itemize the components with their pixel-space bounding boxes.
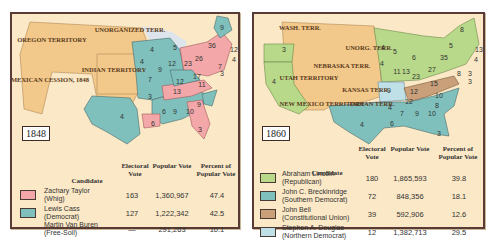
candidate-name: Stephen A. Douglas xyxy=(282,224,346,232)
table-row: Martin Van Buren (Free-Soil) — 291,263 1… xyxy=(12,220,238,238)
svg-text:8: 8 xyxy=(457,70,461,77)
svg-text:13: 13 xyxy=(475,46,483,53)
republican-swatch xyxy=(260,173,276,183)
svg-text:4: 4 xyxy=(380,60,384,67)
popular-vote: 848,356 xyxy=(384,192,436,201)
candidate-name: John Bell xyxy=(282,206,349,214)
candidate-party: (Northern Democrat) xyxy=(282,232,346,240)
percent-vote: 39.8 xyxy=(439,174,479,183)
svg-text:11: 11 xyxy=(393,68,400,75)
svg-text:35: 35 xyxy=(440,54,448,61)
svg-text:UTAH TERRITORY: UTAH TERRITORY xyxy=(280,74,339,81)
header-electoral: Electoral Vote xyxy=(115,162,155,178)
popular-vote: 1,222,342 xyxy=(147,209,197,218)
svg-text:6: 6 xyxy=(390,120,394,127)
svg-text:9: 9 xyxy=(415,110,419,117)
percent-vote: 42.5 xyxy=(197,209,237,218)
candidate-name: Zachary Taylor xyxy=(44,187,90,195)
table-row: Stephen A. Douglas (Northern Democrat) 1… xyxy=(254,223,483,241)
svg-text:13: 13 xyxy=(402,68,410,75)
percent-vote: 18.1 xyxy=(439,192,479,201)
svg-text:12: 12 xyxy=(168,60,176,67)
svg-text:4: 4 xyxy=(120,113,124,120)
header-electoral: Electoral Vote xyxy=(354,145,390,161)
svg-text:6: 6 xyxy=(412,54,416,61)
percent-vote: 10.1 xyxy=(197,225,237,234)
svg-text:3: 3 xyxy=(437,130,441,137)
candidate-name: John C. Breckinridge xyxy=(282,188,347,196)
svg-text:3: 3 xyxy=(468,78,472,85)
svg-text:4: 4 xyxy=(381,44,385,51)
constitutional-union-swatch xyxy=(260,209,276,219)
svg-text:7: 7 xyxy=(148,76,152,83)
popular-vote: 291,263 xyxy=(147,225,197,234)
svg-text:UNORGANIZED TERR.: UNORGANIZED TERR. xyxy=(95,26,166,33)
svg-text:6: 6 xyxy=(151,120,155,127)
header-popular: Popular Vote xyxy=(390,145,430,153)
svg-text:17: 17 xyxy=(193,73,201,80)
svg-text:36: 36 xyxy=(208,42,216,49)
svg-text:7: 7 xyxy=(218,63,222,70)
svg-text:12: 12 xyxy=(230,46,238,53)
northern-democrat-swatch xyxy=(260,227,276,237)
popular-vote: 1,382,713 xyxy=(384,228,436,237)
svg-text:3: 3 xyxy=(148,93,152,100)
svg-text:8: 8 xyxy=(435,102,439,109)
svg-text:UNORG. TERR.: UNORG. TERR. xyxy=(345,44,392,51)
svg-text:11: 11 xyxy=(198,81,205,88)
whig-swatch xyxy=(20,190,36,200)
electoral-vote: 39 xyxy=(357,210,387,219)
electoral-vote: 72 xyxy=(357,192,387,201)
svg-text:4: 4 xyxy=(232,56,236,63)
svg-text:9: 9 xyxy=(387,87,391,94)
header-popular: Popular Vote xyxy=(152,162,192,170)
popular-vote: 592,906 xyxy=(384,210,436,219)
svg-text:WASH. TERR.: WASH. TERR. xyxy=(279,24,321,31)
electoral-vote: — xyxy=(117,225,147,234)
popular-vote: 1,360,967 xyxy=(147,191,197,200)
svg-text:5: 5 xyxy=(449,42,453,49)
svg-text:6: 6 xyxy=(162,108,166,115)
svg-text:3: 3 xyxy=(468,70,472,77)
svg-text:5: 5 xyxy=(173,44,177,51)
svg-text:MEXICAN CESSION, 1848: MEXICAN CESSION, 1848 xyxy=(12,76,90,83)
percent-vote: 12.6 xyxy=(439,210,479,219)
header-percent: Percent of Popular Vote xyxy=(192,162,240,178)
svg-text:12: 12 xyxy=(410,88,418,95)
svg-text:12: 12 xyxy=(176,78,184,85)
map-panel-1848: OREGON TERRITORY UNORGANIZED TERR. MEXIC… xyxy=(10,12,240,229)
electoral-vote: 180 xyxy=(357,174,387,183)
candidate-name: Abraham Lincoln xyxy=(282,170,335,178)
svg-text:4: 4 xyxy=(150,46,154,53)
svg-text:NEBRASKA TERR.: NEBRASKA TERR. xyxy=(314,62,371,69)
svg-text:4: 4 xyxy=(360,121,364,128)
candidate-party: (Constitutional Union) xyxy=(282,214,349,222)
svg-text:9: 9 xyxy=(173,108,177,115)
svg-text:23: 23 xyxy=(184,60,192,67)
candidate-name: Martin Van Buren xyxy=(44,221,98,229)
electoral-vote: 12 xyxy=(357,228,387,237)
svg-text:4: 4 xyxy=(272,78,276,85)
svg-text:9: 9 xyxy=(197,101,201,108)
candidate-party: (Free-Soil) xyxy=(44,229,98,237)
header-percent: Percent of Popular Vote xyxy=(432,145,484,161)
svg-text:INDIAN TERRITORY: INDIAN TERRITORY xyxy=(82,66,147,73)
svg-text:7: 7 xyxy=(400,110,404,117)
svg-text:27: 27 xyxy=(428,66,436,73)
svg-text:3: 3 xyxy=(198,126,202,133)
svg-text:4: 4 xyxy=(474,56,478,63)
candidate-name: Lewis Cass xyxy=(44,205,80,213)
year-label: 1848 xyxy=(22,126,50,141)
candidate-party: (Whig) xyxy=(44,195,90,203)
democrat-swatch xyxy=(20,208,36,218)
popular-vote: 1,865,593 xyxy=(384,174,436,183)
table-row: John C. Breckinridge (Southern Democrat)… xyxy=(254,187,483,205)
electoral-vote: 163 xyxy=(117,191,147,200)
svg-text:9: 9 xyxy=(158,66,162,73)
table-row: Zachary Taylor (Whig) 163 1,360,967 47.4 xyxy=(12,186,238,204)
table-row: John Bell (Constitutional Union) 39 592,… xyxy=(254,205,483,223)
svg-text:13: 13 xyxy=(173,88,181,95)
svg-text:15: 15 xyxy=(430,80,438,87)
svg-text:10: 10 xyxy=(435,92,443,99)
percent-vote: 29.5 xyxy=(439,228,479,237)
